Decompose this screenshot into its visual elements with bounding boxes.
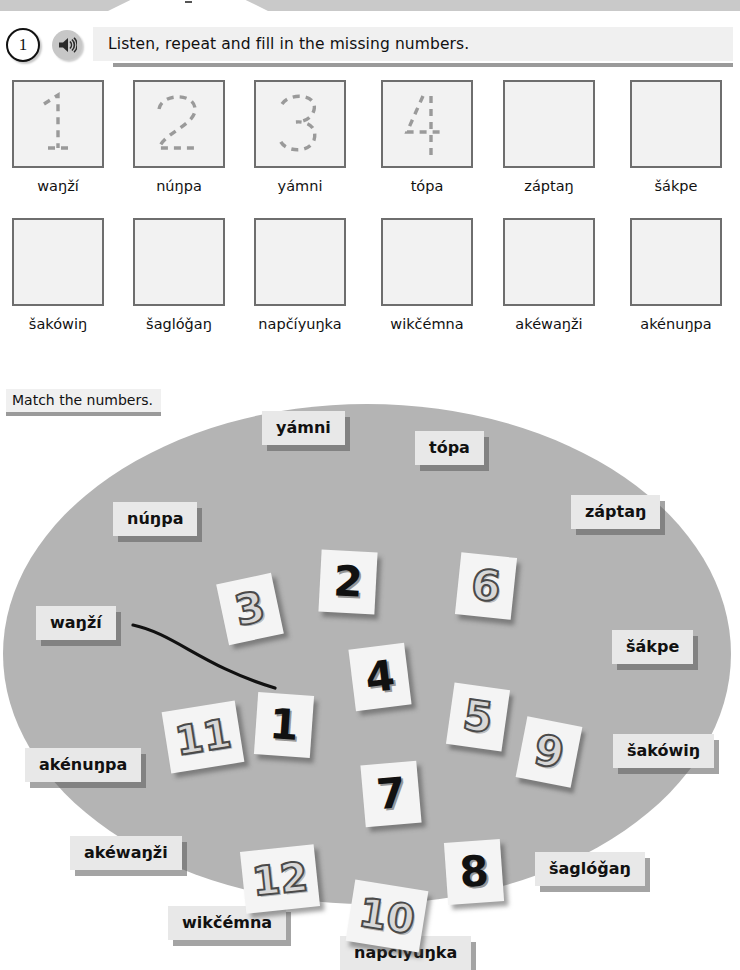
trace-box-empty[interactable]	[630, 80, 722, 168]
instruction-bar: Listen, repeat and fill in the missing n…	[93, 27, 733, 61]
word-card[interactable]: záptaŋ	[571, 495, 660, 529]
trace-label: yámni	[254, 178, 346, 194]
instruction-underline	[113, 63, 733, 67]
trace-cell-napčíyuŋka[interactable]: napčíyuŋka	[254, 218, 346, 332]
number-card[interactable]: 7	[360, 761, 421, 828]
word-card[interactable]: waŋží	[36, 606, 116, 640]
number-card-value: 4	[363, 654, 397, 699]
speaker-icon	[57, 36, 77, 54]
number-card[interactable]: 1	[254, 692, 314, 758]
trace-cell-núŋpa[interactable]: núŋpa	[133, 80, 225, 194]
number-card[interactable]: 9	[516, 716, 583, 788]
trace-box-empty[interactable]	[133, 218, 225, 306]
dashed-digit-4-icon	[383, 82, 471, 166]
number-card-value: 11	[172, 713, 233, 761]
number-card[interactable]: 4	[348, 643, 411, 711]
trace-box-empty[interactable]	[381, 218, 473, 306]
audio-play-button[interactable]	[52, 30, 82, 60]
trace-label: núŋpa	[133, 178, 225, 194]
trace-cell-akénuŋpa[interactable]: akénuŋpa	[630, 218, 722, 332]
number-card-value: 6	[469, 564, 502, 609]
exercise-number-badge: 1	[6, 28, 40, 62]
trace-box-filled[interactable]	[381, 80, 473, 168]
dashed-digit-1-icon	[14, 82, 102, 166]
trace-label: záptaŋ	[503, 178, 595, 194]
trace-cell-yámni[interactable]: yámni	[254, 80, 346, 194]
trace-label: wikčémna	[381, 316, 473, 332]
number-card-value: 5	[461, 694, 496, 740]
trace-box-empty[interactable]	[12, 218, 104, 306]
trace-row-1: waŋžínúŋpayámnitópazáptaŋšákpe	[0, 80, 740, 218]
trace-cell-šákpe[interactable]: šákpe	[630, 80, 722, 194]
number-card-value: 3	[231, 585, 268, 632]
match-instruction-text: Match the numbers.	[12, 392, 153, 408]
trace-box-empty[interactable]	[503, 80, 595, 168]
trace-row-2: šakówiŋšaglóǧaŋnapčíyuŋkawikčémnaakéwaŋž…	[0, 218, 740, 356]
word-card[interactable]: yámni	[262, 411, 345, 445]
number-card-value: 7	[375, 772, 408, 816]
dashed-digit-2-icon	[135, 82, 223, 166]
number-card[interactable]: 10	[346, 880, 429, 953]
trace-cell-šakówiŋ[interactable]: šakówiŋ	[12, 218, 104, 332]
number-card-value: 1	[268, 703, 300, 747]
number-card[interactable]: 8	[444, 839, 504, 905]
exercise-number-label: 1	[19, 35, 28, 55]
trace-label: šaglóǧaŋ	[133, 316, 225, 332]
word-card[interactable]: šaglóǧaŋ	[535, 852, 645, 886]
trace-label: šákpe	[630, 178, 722, 194]
match-activity-area: yámnitópanúŋpazáptaŋwaŋžíšákpeakénuŋpaša…	[0, 398, 740, 876]
instruction-text: Listen, repeat and fill in the missing n…	[108, 35, 469, 53]
word-card[interactable]: núŋpa	[113, 502, 197, 536]
trace-cell-záptaŋ[interactable]: záptaŋ	[503, 80, 595, 194]
trace-cell-wikčémna[interactable]: wikčémna	[381, 218, 473, 332]
number-card-value: 8	[458, 850, 490, 894]
number-card[interactable]: 11	[162, 701, 245, 774]
trace-box-filled[interactable]	[12, 80, 104, 168]
number-card-value: 9	[531, 729, 568, 776]
trace-exercise-grid: waŋžínúŋpayámnitópazáptaŋšákpe šakówiŋša…	[0, 80, 740, 356]
trace-cell-šaglóǧaŋ[interactable]: šaglóǧaŋ	[133, 218, 225, 332]
page-tab-shape	[108, 0, 268, 11]
match-instruction-label: Match the numbers.	[6, 389, 161, 412]
top-gray-strip	[0, 0, 740, 11]
tab-mark	[185, 1, 192, 3]
trace-cell-akéwaŋži[interactable]: akéwaŋži	[503, 218, 595, 332]
dashed-digit-3-icon	[256, 82, 344, 166]
trace-box-empty[interactable]	[503, 218, 595, 306]
word-card[interactable]: akéwaŋži	[70, 836, 182, 870]
number-card[interactable]: 6	[455, 552, 517, 620]
trace-box-filled[interactable]	[254, 80, 346, 168]
number-card-value: 2	[332, 560, 363, 603]
number-card[interactable]: 12	[240, 844, 320, 913]
trace-box-empty[interactable]	[630, 218, 722, 306]
number-card-value: 10	[356, 892, 417, 940]
trace-label: tópa	[381, 178, 473, 194]
trace-cell-waŋží[interactable]: waŋží	[12, 80, 104, 194]
word-card[interactable]: šakówiŋ	[613, 734, 714, 768]
instruction-row: 1 Listen, repeat and fill in the missing…	[0, 25, 740, 67]
trace-box-empty[interactable]	[254, 218, 346, 306]
number-card[interactable]: 5	[446, 682, 510, 751]
number-card-value: 12	[250, 856, 310, 902]
word-card[interactable]: tópa	[415, 431, 484, 465]
word-card[interactable]: akénuŋpa	[25, 748, 141, 782]
trace-label: akéwaŋži	[503, 316, 595, 332]
word-card[interactable]: šákpe	[612, 630, 693, 664]
trace-label: waŋží	[12, 178, 104, 194]
trace-label: napčíyuŋka	[254, 316, 346, 332]
trace-cell-tópa[interactable]: tópa	[381, 80, 473, 194]
trace-label: akénuŋpa	[630, 316, 722, 332]
trace-box-filled[interactable]	[133, 80, 225, 168]
trace-label: šakówiŋ	[12, 316, 104, 332]
number-card[interactable]: 2	[318, 550, 377, 615]
